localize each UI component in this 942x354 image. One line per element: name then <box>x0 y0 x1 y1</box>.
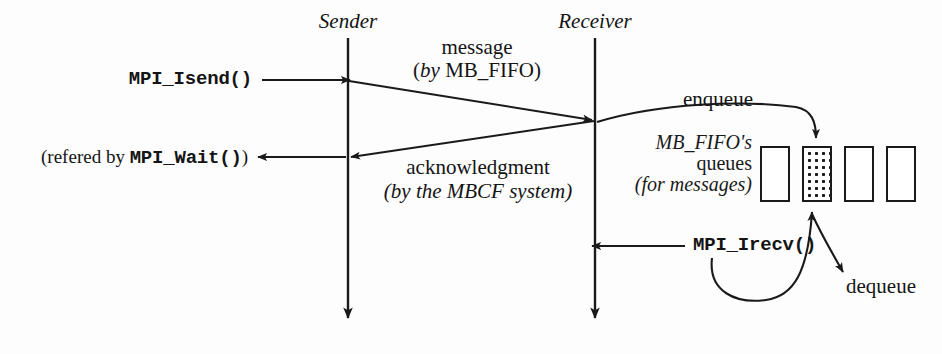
enqueue-label: enqueue <box>683 88 753 112</box>
queue-caption-line1: MB_FIFO's <box>600 132 752 153</box>
message-transport: MB_FIFO) <box>440 58 541 82</box>
queue-caption-line3: (for messages) <box>600 174 752 195</box>
wait-paren-close: ) <box>242 146 248 167</box>
message-by: by <box>420 58 440 82</box>
queue-slot-4 <box>886 146 916 202</box>
message-paren-open: ( <box>413 58 420 82</box>
wait-paren-open: (refered by <box>41 146 130 167</box>
message-label-line1: message <box>441 36 512 60</box>
message-label-line2: (by MB_FIFO) <box>413 59 541 83</box>
dequeue-arrow <box>712 212 812 301</box>
queue-slot-2-filled <box>802 146 832 202</box>
queue-caption: MB_FIFO's queues (for messages) <box>600 132 752 196</box>
message-arrow <box>349 81 592 120</box>
sender-lifeline-label: Sender <box>319 10 377 34</box>
isend-call-label: MPI_Isend() <box>129 69 252 90</box>
queue-slot-3 <box>844 146 874 202</box>
queue-slot-1 <box>760 146 790 202</box>
acknowledgment-arrow <box>351 121 594 157</box>
acknowledgment-label-line1: acknowledgment <box>406 156 549 180</box>
wait-call-text: MPI_Wait() <box>130 147 242 169</box>
dequeue-label: dequeue <box>846 275 916 299</box>
queue-caption-line2: queues <box>600 153 752 174</box>
dequeue-label-arrow <box>812 214 843 272</box>
acknowledgment-label-line2: (by the MBCF system) <box>384 180 572 204</box>
receiver-lifeline-label: Receiver <box>558 10 631 34</box>
irecv-call-label: MPI_Irecv() <box>693 235 816 256</box>
wait-call-label: (refered by MPI_Wait()) <box>41 146 248 169</box>
mpi-mbcf-sequence-diagram: Sender Receiver MPI_Isend() (refered by … <box>0 0 942 354</box>
